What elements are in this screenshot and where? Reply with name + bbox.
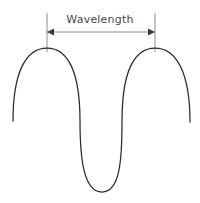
wavelength-label: Wavelength xyxy=(0,13,200,26)
wavelength-diagram: Wavelength xyxy=(0,0,200,203)
arrow-left-icon xyxy=(47,29,54,36)
arrow-right-icon xyxy=(148,29,155,36)
wave-diagram-canvas xyxy=(0,0,200,203)
wave-curve xyxy=(13,48,190,192)
